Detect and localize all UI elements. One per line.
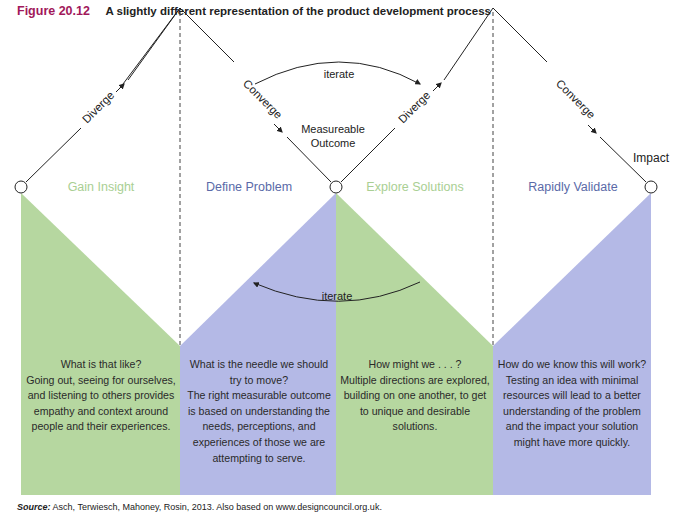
converge-arrow-2 (588, 125, 596, 133)
phase-title-gain-insight: Gain Insight (68, 180, 135, 194)
impact-label: Impact (633, 151, 670, 165)
measureable-label-line1: Measureable (301, 123, 365, 135)
gain-insight-text: What is that like? Going out, seeing for… (24, 357, 178, 435)
impact-node (645, 181, 657, 193)
phase-title-explore-solutions: Explore Solutions (366, 180, 463, 194)
source-note: Source: Asch, Terwiesch, Mahoney, Rosin,… (17, 502, 382, 512)
define-problem-text: What is the needle we should try to move… (184, 357, 334, 466)
gain-insight-question: What is that like? (24, 357, 178, 373)
measureable-label-line2: Outcome (311, 137, 356, 149)
source-text: Asch, Terwiesch, Mahoney, Rosin, 2013. A… (53, 502, 382, 512)
explore-solutions-question: How might we . . . ? (338, 357, 492, 373)
diverge-line-1c (120, 8, 180, 88)
diverge-line-2b (444, 8, 493, 80)
rapidly-validate-text: How do we know this will work? Testing a… (496, 357, 648, 451)
explore-solutions-text: How might we . . . ? Multiple directions… (338, 357, 492, 435)
gain-insight-fill (21, 193, 180, 495)
converge-line-2a (493, 8, 547, 62)
define-problem-description: The right measurable outcome is based on… (184, 388, 334, 466)
converge-line-1a (180, 8, 234, 62)
diverge-arrow-1 (116, 84, 124, 92)
converge-label-1: Converge (241, 77, 285, 121)
start-node (15, 181, 27, 193)
define-problem-question: What is the needle we should try to move… (184, 357, 334, 388)
diverge-arrow-2 (433, 83, 441, 91)
iterate-bottom-label: iterate (322, 290, 353, 302)
diverge-label-1: Diverge (80, 89, 117, 126)
converge-arrow-1 (274, 124, 282, 132)
phase-title-rapidly-validate: Rapidly Validate (528, 180, 617, 194)
diverge-label-2: Diverge (396, 89, 433, 126)
phase-title-define-problem: Define Problem (206, 180, 292, 194)
diverge-line-1a (26, 128, 81, 182)
converge-label-2: Converge (554, 77, 598, 121)
rapidly-validate-description: Testing an idea with minimal resources w… (496, 373, 648, 451)
iterate-top-label: iterate (324, 68, 355, 80)
explore-solutions-description: Multiple directions are explored, buildi… (338, 373, 492, 435)
gain-insight-description: Going out, seeing for ourselves, and lis… (24, 373, 178, 435)
source-label: Source: (17, 502, 51, 512)
explore-solutions-fill (336, 193, 493, 495)
measureable-outcome-node (330, 181, 342, 193)
rapidly-validate-question: How do we know this will work? (496, 357, 648, 373)
